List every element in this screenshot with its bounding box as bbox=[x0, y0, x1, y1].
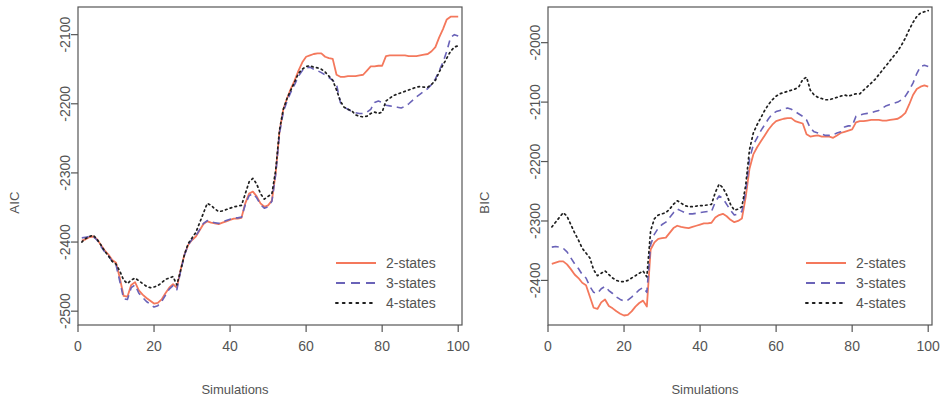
series-line-4-states bbox=[82, 46, 458, 288]
legend-label-4-states: 4-states bbox=[856, 295, 906, 311]
y-tick-label-bic: -2400 bbox=[527, 262, 543, 298]
y-tick-label-aic: -2200 bbox=[57, 86, 73, 122]
panel-bic: BIC 020406080100-2400-2300-2200-2100-200… bbox=[470, 0, 940, 405]
y-tick-label-aic: -2500 bbox=[57, 293, 73, 329]
series-line-4-states bbox=[552, 11, 928, 282]
x-axis-label-aic: Simulations bbox=[0, 382, 470, 397]
x-tick-label-aic: 60 bbox=[298, 338, 314, 354]
y-tick-label-aic: -2400 bbox=[57, 224, 73, 260]
panel-aic: AIC 020406080100-2500-2400-2300-2200-210… bbox=[0, 0, 470, 405]
x-tick-label-bic: 60 bbox=[768, 338, 784, 354]
y-tick-label-bic: -2000 bbox=[527, 25, 543, 61]
x-tick-label-bic: 100 bbox=[917, 338, 940, 354]
x-axis-label-bic: Simulations bbox=[470, 382, 940, 397]
legend-label-3-states: 3-states bbox=[386, 275, 436, 291]
legend-label-3-states: 3-states bbox=[856, 275, 906, 291]
x-tick-label-bic: 80 bbox=[844, 338, 860, 354]
legend-label-2-states: 2-states bbox=[386, 255, 436, 271]
x-tick-label-bic: 40 bbox=[692, 338, 708, 354]
x-tick-label-aic: 20 bbox=[146, 338, 162, 354]
x-tick-label-aic: 0 bbox=[74, 338, 82, 354]
x-tick-label-aic: 80 bbox=[374, 338, 390, 354]
y-tick-label-bic: -2100 bbox=[527, 84, 543, 120]
y-tick-label-bic: -2300 bbox=[527, 203, 543, 239]
x-tick-label-bic: 0 bbox=[544, 338, 552, 354]
y-tick-label-aic: -2100 bbox=[57, 17, 73, 53]
legend-label-2-states: 2-states bbox=[856, 255, 906, 271]
x-tick-label-aic: 100 bbox=[447, 338, 470, 354]
plot-area-aic: 020406080100-2500-2400-2300-2200-21002-s… bbox=[0, 0, 470, 405]
x-tick-label-aic: 40 bbox=[222, 338, 238, 354]
legend-label-4-states: 4-states bbox=[386, 295, 436, 311]
legend-aic: 2-states3-states4-states bbox=[336, 255, 436, 311]
y-tick-label-aic: -2300 bbox=[57, 155, 73, 191]
legend-bic: 2-states3-states4-states bbox=[806, 255, 906, 311]
x-tick-label-bic: 20 bbox=[616, 338, 632, 354]
plot-area-bic: 020406080100-2400-2300-2200-2100-20002-s… bbox=[470, 0, 940, 405]
figure-aic-bic-comparison: AIC 020406080100-2500-2400-2300-2200-210… bbox=[0, 0, 941, 405]
y-tick-label-bic: -2200 bbox=[527, 143, 543, 179]
